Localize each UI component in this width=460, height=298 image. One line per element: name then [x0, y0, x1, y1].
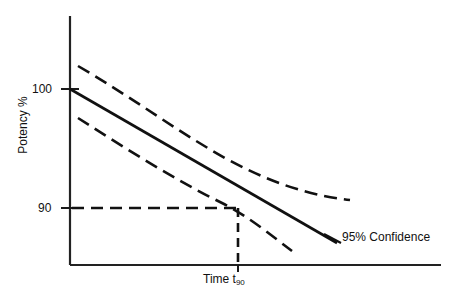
potency-time-chart: 100 90 Potency % Time t90 95% Confidence: [0, 0, 460, 298]
x-axis-label-text: Time t: [203, 272, 236, 286]
upper-confidence-curve: [78, 66, 350, 200]
x-axis-label: Time t90: [203, 272, 245, 286]
chart-plot-area: [0, 0, 460, 298]
mean-regression-line: [70, 89, 337, 243]
lower-confidence-curve: [78, 118, 292, 251]
x-axis-label-subscript: 90: [236, 278, 245, 287]
y-tick-label-90: 90: [38, 201, 51, 215]
y-tick-label-100: 100: [32, 82, 52, 96]
confidence-annotation-label: 95% Confidence: [342, 230, 430, 244]
y-axis-label: Potency %: [16, 90, 30, 160]
